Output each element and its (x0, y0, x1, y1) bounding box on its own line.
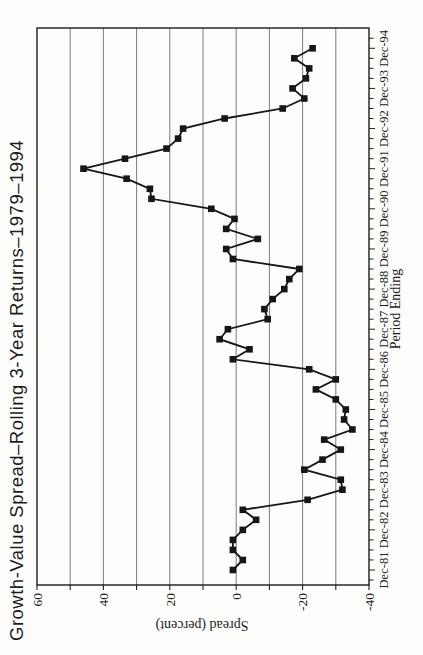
data-point-marker (240, 527, 247, 534)
y-tick-label: -20 (295, 593, 310, 611)
data-point-marker (286, 276, 293, 283)
x-tick-label: Dec-92 (377, 110, 391, 147)
x-tick-label: Dec-83 (377, 471, 391, 508)
data-point-marker (301, 466, 308, 473)
data-point-marker (303, 75, 310, 82)
data-point-marker (80, 165, 87, 172)
data-point-marker (221, 115, 228, 122)
data-point-marker (289, 85, 296, 92)
data-point-marker (301, 95, 308, 102)
data-point-marker (339, 486, 346, 493)
x-tick-label: Dec-93 (377, 70, 391, 107)
y-tick-label: -40 (362, 593, 377, 611)
data-point-marker (313, 386, 320, 393)
rotated-chart-stage: Growth-Value Spread–Rolling 3-Year Retur… (0, 0, 423, 655)
data-point-marker (264, 316, 271, 323)
data-point-marker (123, 175, 130, 182)
data-point-marker (246, 346, 253, 353)
data-point-marker (208, 206, 215, 213)
page: { "chart_data": { "type": "line", "title… (0, 0, 423, 655)
x-tick-label: Dec-90 (377, 190, 391, 227)
data-point-marker (255, 236, 262, 243)
plot-area: 6040200-20-40Dec-81Dec-82Dec-83Dec-84Dec… (0, 0, 423, 655)
data-point-marker (296, 266, 303, 273)
data-point-marker (304, 497, 311, 504)
y-tick-label: 20 (163, 593, 178, 607)
data-point-marker (147, 186, 154, 193)
y-tick-label: 40 (96, 593, 111, 607)
data-point-marker (349, 426, 356, 433)
data-point-marker (319, 456, 326, 463)
data-point-marker (148, 196, 155, 203)
data-point-marker (279, 105, 286, 112)
data-point-marker (338, 476, 345, 483)
x-tick-label: Dec-85 (377, 391, 391, 428)
y-tick-label: 60 (30, 593, 45, 607)
x-tick-label: Dec-81 (377, 552, 391, 589)
x-tick-label: Dec-94 (377, 29, 391, 67)
data-point-marker (269, 296, 276, 303)
x-tick-label: Dec-89 (377, 231, 391, 268)
x-tick-label: Dec-82 (377, 511, 391, 548)
data-point-marker (230, 256, 237, 263)
data-point-marker (231, 216, 238, 223)
x-axis-label: Period Ending (388, 269, 404, 350)
data-point-marker (163, 145, 170, 152)
data-point-marker (291, 55, 298, 62)
y-tick-label: 0 (229, 593, 244, 600)
data-point-marker (333, 396, 340, 403)
data-point-marker (230, 537, 237, 544)
data-point-marker (122, 155, 129, 162)
data-point-marker (253, 517, 260, 524)
data-point-marker (281, 286, 288, 293)
data-point-marker (216, 336, 223, 343)
x-tick-label: Dec-86 (377, 351, 391, 388)
data-point-marker (321, 436, 328, 443)
data-point-marker (240, 557, 247, 564)
data-point-marker (223, 246, 230, 253)
x-tick-label: Dec-84 (377, 430, 391, 468)
data-point-marker (230, 356, 237, 363)
spread-line (84, 48, 353, 570)
data-point-marker (223, 226, 230, 233)
data-point-marker (261, 306, 268, 313)
data-point-marker (333, 376, 340, 383)
data-point-marker (306, 65, 313, 72)
data-point-marker (230, 547, 237, 554)
data-point-marker (309, 45, 316, 52)
data-point-marker (175, 135, 182, 142)
y-axis-label: Spread (percent) (156, 617, 249, 633)
data-point-marker (240, 507, 247, 514)
data-point-marker (225, 326, 232, 333)
data-point-marker (180, 125, 187, 132)
data-point-marker (341, 416, 348, 423)
data-point-marker (306, 366, 313, 373)
data-point-marker (338, 446, 345, 453)
x-tick-label: Dec-91 (377, 150, 391, 187)
data-point-marker (343, 406, 350, 413)
data-point-marker (230, 567, 237, 574)
